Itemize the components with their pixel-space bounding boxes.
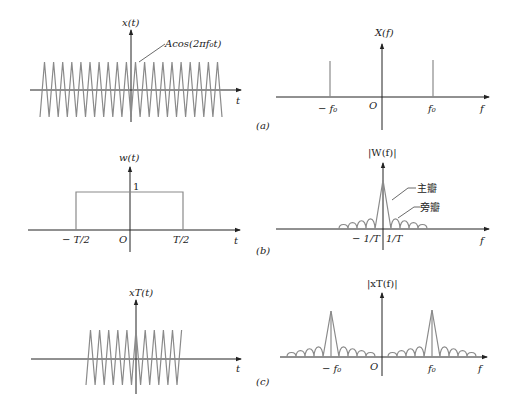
side-lobe-label: 旁瓣 (420, 201, 440, 213)
panel-a-freq-plot: X(f) f − f₀ O f₀ (a) (256, 27, 489, 131)
xlabel-t: t (236, 363, 241, 374)
xlabel-f: f (477, 363, 484, 374)
panel-b-time-plot: w(t) 1 − T/2 O T/2 t (28, 152, 240, 252)
side-lobe-leader (398, 207, 414, 218)
annotation-leader (139, 44, 165, 62)
origin-label: O (370, 361, 378, 372)
cosine-annotation: Acos(2πf₀t) (164, 38, 222, 49)
tick-neg-1T: − 1/T (352, 233, 381, 244)
level-one: 1 (133, 181, 139, 192)
ylabel-x-t: x(t) (122, 17, 140, 28)
ylabel-X-f: X(f) (374, 27, 394, 38)
panel-c-freq-plot: |xT(f)| − f₀ O f₀ f (c) (256, 278, 487, 387)
tick-T2: T/2 (173, 234, 189, 245)
xlabel-t: t (234, 235, 239, 246)
signal-truncation-figure: x(t) t Acos(2πf₀t) X(f) f − f₀ O f₀ (a) … (0, 0, 511, 418)
main-lobe-leader (392, 188, 408, 200)
tick-neg-f0: − f₀ (322, 363, 341, 374)
panel-a-time-plot: x(t) t Acos(2πf₀t) (30, 17, 241, 122)
tick-f0: f₀ (427, 363, 436, 374)
origin-label: O (369, 100, 377, 111)
tick-neg-T2: − T/2 (62, 234, 90, 245)
panel-c-time-plot: xT(t) t (31, 287, 241, 394)
truncated-cosine-waveform (86, 330, 182, 385)
tick-f0: f₀ (427, 103, 436, 114)
xlabel-f: f (479, 235, 486, 246)
origin-label: O (119, 234, 127, 245)
xlabel-f: f (479, 103, 486, 114)
ylabel-W-f: |W(f)| (368, 147, 397, 159)
main-lobe-label: 主瓣 (417, 183, 437, 194)
caption-c: (c) (256, 376, 270, 387)
caption-b: (b) (256, 245, 270, 256)
panel-b-freq-plot: |W(f)| 主瓣 旁瓣 − 1/T 1/T f (b) (256, 147, 489, 256)
tick-neg-f0: − f₀ (318, 103, 337, 114)
tick-1T: 1/T (386, 233, 404, 244)
ylabel-xT-t: xT(t) (129, 287, 153, 298)
ylabel-w-t: w(t) (119, 152, 139, 163)
caption-a: (a) (256, 120, 270, 131)
xlabel-t: t (236, 95, 241, 106)
ylabel-XT-f: |xT(f)| (367, 278, 398, 290)
